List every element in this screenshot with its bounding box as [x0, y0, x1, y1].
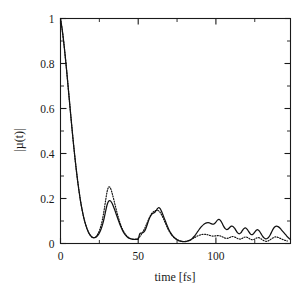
- y-tick-label: 0.8: [40, 58, 55, 70]
- x-tick-label: 0: [58, 250, 64, 262]
- y-tick-label: 0: [49, 238, 55, 250]
- x-tick-label: 50: [132, 250, 144, 262]
- y-tick-label: 0.6: [40, 103, 55, 115]
- y-tick-label: 1: [49, 13, 55, 25]
- x-tick-label: 100: [207, 250, 225, 262]
- chart-svg: 00.20.40.60.81 050100 time [fs] |µ(t)|: [0, 0, 304, 294]
- y-axis-title: |µ(t)|: [12, 128, 26, 151]
- y-tick-label: 0.2: [40, 193, 55, 205]
- chart-figure: 00.20.40.60.81 050100 time [fs] |µ(t)|: [0, 0, 304, 294]
- y-tick-label: 0.4: [40, 148, 55, 160]
- x-axis-title: time [fs]: [155, 270, 196, 284]
